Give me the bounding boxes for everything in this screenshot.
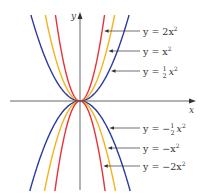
arrow-left-icon: [104, 29, 109, 33]
curve-label: y = −x2: [142, 142, 180, 154]
x-axis-label: x: [189, 105, 194, 115]
curve-label: y = −2x2: [142, 160, 186, 172]
curve-labels: y = 2x2y = x2y = 12x2y = −12x2y = −x2y =…: [103, 25, 186, 172]
y-axis-arrow-icon: [78, 12, 83, 19]
curve-label: y = 12x2: [142, 65, 178, 80]
x-axis-arrow-icon: [189, 99, 196, 104]
arrow-left-icon: [108, 146, 113, 150]
arrow-left-icon: [103, 164, 108, 168]
chart-root: y x y = 2x2y = x2y = 12x2y = −12x2y = −x…: [0, 0, 207, 195]
curve-label: y = −12x2: [142, 122, 186, 137]
arrow-left-icon: [111, 69, 116, 73]
curve-label: y = x2: [142, 45, 172, 57]
arrow-left-icon: [108, 49, 113, 53]
arrow-left-icon: [109, 126, 114, 130]
parabola-chart: y x y = 2x2y = x2y = 12x2y = −12x2y = −x…: [0, 0, 207, 195]
y-axis-label: y: [70, 11, 77, 21]
curve-label: y = 2x2: [142, 25, 178, 37]
